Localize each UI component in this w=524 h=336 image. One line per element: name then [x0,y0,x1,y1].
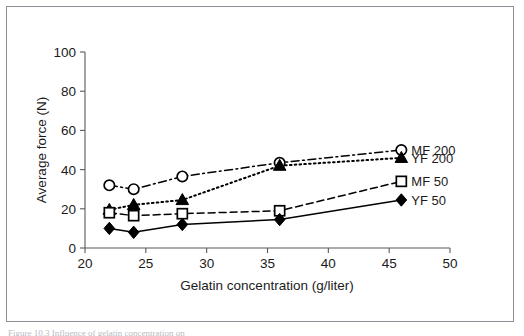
marker-filled-diamond [177,218,188,230]
marker-open-circle [104,180,114,190]
x-tick-label: 25 [138,256,153,271]
x-tick-label: 35 [260,256,275,271]
series-line [109,150,401,189]
figure-caption-partial: Figure 10.3 Influence of gelatin concent… [8,328,328,336]
marker-filled-diamond [396,194,407,206]
series-line [109,200,401,232]
y-axis-title: Average force (N) [34,97,49,203]
x-tick-label: 40 [321,256,336,271]
x-tick-label: 50 [442,256,457,271]
data-point-filled-diamond [177,218,188,230]
legend-label-yf-200: YF 200 [411,151,453,166]
data-point-open-square [104,208,114,218]
y-tick-label: 20 [61,202,76,217]
series-yf-200 [103,151,408,214]
marker-filled-diamond [104,222,115,234]
chart-series-layer [103,145,408,239]
data-point-open-circle [104,180,114,190]
series-yf-50 [104,194,407,239]
series-line [109,181,401,215]
x-tick-label: 20 [77,256,92,271]
x-axis-ticks: 20253035404550 [77,248,457,271]
data-point-filled-diamond [128,226,139,238]
x-axis-title: Gelatin concentration (g/liter) [180,278,353,293]
y-axis-ticks: 020406080100 [53,45,85,256]
x-tick-label: 30 [199,256,214,271]
marker-open-square [396,176,406,186]
data-point-open-square [129,211,139,221]
legend-label-yf-50: YF 50 [411,193,446,208]
data-point-open-square [177,209,187,219]
marker-open-circle [177,171,187,181]
y-tick-label: 100 [53,45,76,60]
data-point-open-circle [128,184,138,194]
line-chart: 020406080100 20253035404550 MF 200YF 200… [0,0,524,336]
y-tick-label: 40 [61,163,76,178]
data-point-open-square [396,176,406,186]
series-mf-50 [104,176,406,220]
marker-open-square [129,211,139,221]
marker-open-square [177,209,187,219]
marker-open-square [104,208,114,218]
marker-filled-diamond [128,226,139,238]
data-point-filled-diamond [396,194,407,206]
x-tick-label: 45 [382,256,397,271]
y-tick-label: 80 [61,84,76,99]
y-tick-label: 60 [61,123,76,138]
figure-root: 020406080100 20253035404550 MF 200YF 200… [0,0,524,336]
data-point-open-circle [177,171,187,181]
data-point-filled-diamond [104,222,115,234]
legend-label-mf-50: MF 50 [411,174,448,189]
marker-open-circle [128,184,138,194]
y-tick-label: 0 [68,241,76,256]
series-mf-200 [104,145,406,195]
chart-legend: MF 200YF 200MF 50YF 50 [411,143,455,208]
